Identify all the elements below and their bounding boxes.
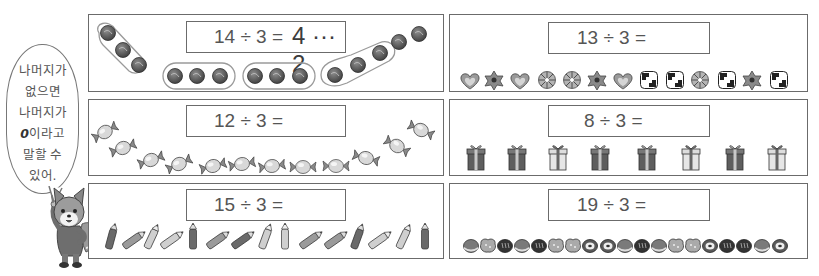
bubble-line: 나머지가 (6, 60, 79, 81)
bubble-line: 있어. (6, 165, 79, 186)
cookies-illustration (450, 15, 809, 93)
problem-panel-5: 15 ÷ 3 = (88, 183, 444, 259)
zero-bold: 0 (20, 126, 29, 141)
problem-panel-3: 12 ÷ 3 = (88, 99, 444, 176)
bubble-line-zero: 0이라고 (6, 123, 79, 144)
wrapped-candy-illustration (89, 100, 445, 177)
speech-bubble-text: 나머지가 없으면 나머지가 0이라고 말할 수 있어. (6, 60, 79, 186)
problem-panel-6: 19 ÷ 3 = (449, 183, 808, 259)
gift-box-illustration (450, 100, 809, 177)
problem-panel-4: 8 ÷ 3 = (449, 99, 808, 176)
bubble-line: 말할 수 (6, 144, 79, 165)
pencils-illustration (89, 184, 445, 260)
bread-illustration (450, 184, 809, 260)
bubble-line: 나머지가 (6, 102, 79, 123)
bubble-line-rest: 이라고 (29, 126, 65, 141)
problem-panel-1: 14 ÷ 3 = 4 ··· 2 (88, 14, 444, 92)
problem-panel-2: 13 ÷ 3 = (449, 14, 808, 92)
round-candy-group-illustration (89, 15, 445, 93)
bubble-line: 없으면 (6, 81, 79, 102)
